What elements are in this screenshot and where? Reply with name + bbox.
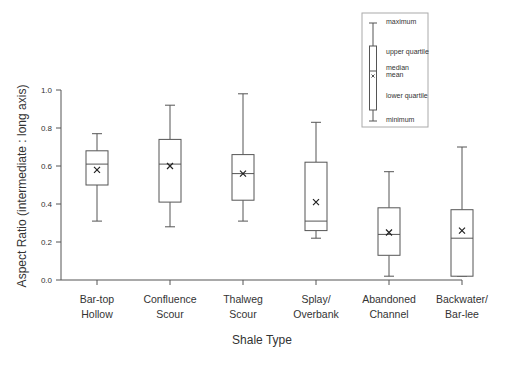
- y-tick-label: 0.8: [41, 124, 53, 133]
- legend-label: lower quartile: [386, 92, 428, 100]
- category-label: Backwater/: [436, 293, 488, 305]
- legend-label: median: [386, 64, 409, 71]
- legend-label: mean: [386, 71, 404, 78]
- legend-box: [370, 46, 377, 110]
- y-tick-label: 1.0: [41, 86, 53, 95]
- x-axis-title: Shale Type: [232, 333, 292, 347]
- y-axis-title: Aspect Ratio (intermediate : long axis): [15, 85, 29, 288]
- y-tick-label: 0.6: [41, 162, 53, 171]
- category-label: Bar-top: [80, 293, 115, 305]
- iqr-box: [305, 162, 327, 230]
- iqr-box: [378, 208, 400, 256]
- category-label: Abandoned: [362, 293, 416, 305]
- iqr-box: [86, 151, 108, 185]
- y-tick-label: 0.0: [41, 276, 53, 285]
- legend-label: maximum: [386, 18, 417, 25]
- boxplot-chart: 0.00.20.40.60.81.0Aspect Ratio (intermed…: [0, 0, 506, 365]
- category-label: Scour: [229, 308, 257, 320]
- y-tick-label: 0.2: [41, 238, 53, 247]
- iqr-box: [232, 155, 254, 201]
- legend-label: upper quartile: [386, 48, 429, 56]
- legend-label: minimum: [386, 116, 415, 123]
- category-label: Confluence: [143, 293, 196, 305]
- category-label: Splay/: [301, 293, 330, 305]
- category-label: Hollow: [81, 308, 113, 320]
- category-label: Overbank: [293, 308, 339, 320]
- y-tick-label: 0.4: [41, 200, 53, 209]
- iqr-box: [451, 210, 473, 277]
- iqr-box: [159, 139, 181, 202]
- category-label: Channel: [369, 308, 408, 320]
- category-label: Thalweg: [223, 293, 263, 305]
- category-label: Bar-lee: [445, 308, 479, 320]
- category-label: Scour: [156, 308, 184, 320]
